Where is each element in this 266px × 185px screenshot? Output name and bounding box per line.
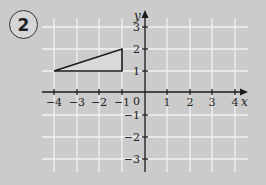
x-axis-label: x xyxy=(241,95,248,109)
x-tick-label: −1 xyxy=(114,96,130,109)
y-tick-label: −3 xyxy=(124,153,140,166)
x-tick-label: 3 xyxy=(209,96,216,109)
y-axis-arrow-icon xyxy=(142,10,149,18)
x-tick-label: −3 xyxy=(69,96,85,109)
origin-label: 0 xyxy=(133,95,140,108)
x-tick-label: −4 xyxy=(46,96,62,109)
triangle-shape xyxy=(54,49,122,71)
y-tick-label: −2 xyxy=(124,131,140,144)
exercise-panel: 2 xyxy=(0,0,266,185)
coordinate-plane: x y 0 −4 −3 −2 −1 1 2 3 4 3 2 1 −1 −2 −3 xyxy=(0,0,266,185)
y-tick-label: 1 xyxy=(133,65,140,78)
y-tick-label: −1 xyxy=(124,109,140,122)
x-tick-label: 1 xyxy=(164,96,171,109)
x-tick-label: −2 xyxy=(91,96,107,109)
y-tick-label: 2 xyxy=(133,43,140,56)
x-tick-label: 4 xyxy=(232,96,239,109)
y-tick-labels: 3 2 1 −1 −2 −3 xyxy=(124,21,140,166)
y-tick-label: 3 xyxy=(133,21,140,34)
x-tick-labels: −4 −3 −2 −1 1 2 3 4 xyxy=(46,96,239,109)
x-tick-label: 2 xyxy=(187,96,194,109)
